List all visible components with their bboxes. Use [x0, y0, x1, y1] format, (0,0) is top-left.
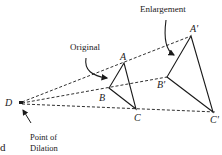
- vertex-label-d: D: [4, 97, 13, 108]
- enlarged-triangle: [167, 36, 213, 112]
- vertex-label-a: A: [119, 51, 127, 62]
- ray-to-c-prime: [22, 104, 216, 112]
- original-arrow-icon: [86, 58, 107, 78]
- vertex-label-c: C: [134, 112, 141, 123]
- ray-to-a-prime: [22, 36, 191, 102]
- enlargement-label: Enlargement: [140, 4, 186, 14]
- vertex-label-c-prime: C': [210, 114, 220, 125]
- center-arrow-icon: [23, 110, 31, 123]
- vertex-label-b: B: [99, 92, 105, 103]
- enlargement-arrow-icon: [165, 20, 174, 55]
- ray-to-b-prime: [22, 77, 167, 103]
- original-triangle: [109, 63, 136, 109]
- center-point-marker: [19, 101, 23, 104]
- vertex-label-a-prime: A': [189, 23, 199, 34]
- dilation-rays: [22, 36, 216, 112]
- original-label: Original: [70, 42, 100, 52]
- dilation-diagram: Enlargement Original Point of Dilation d…: [0, 0, 222, 155]
- fragment-text: d: [0, 141, 6, 153]
- vertex-label-b-prime: B': [157, 79, 166, 90]
- center-label-line2: Dilation: [30, 143, 59, 153]
- center-label-line1: Point of: [30, 132, 57, 142]
